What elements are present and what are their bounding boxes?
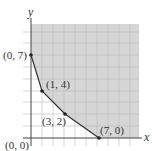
vertex-7-0 bbox=[97, 136, 101, 140]
label-0-7: (0, 7) bbox=[3, 49, 27, 62]
vertex-1-4 bbox=[40, 89, 44, 93]
x-axis-label: x bbox=[143, 130, 150, 144]
origin-label: (0, 0) bbox=[5, 139, 29, 151]
y-axis-label: y bbox=[27, 5, 34, 19]
label-3-2: (3, 2) bbox=[42, 115, 66, 128]
vertex-0-7 bbox=[29, 53, 33, 57]
chart: y x (0, 7) (1, 4) (3, 2) (7, 0) (0, 0) bbox=[0, 0, 152, 151]
label-1-4: (1, 4) bbox=[46, 78, 70, 91]
label-7-0: (7, 0) bbox=[100, 124, 124, 137]
